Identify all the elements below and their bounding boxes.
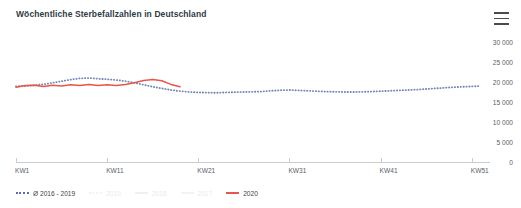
x-axis-tick [289, 158, 290, 163]
y-axis-label: 30 000 [493, 39, 513, 46]
y-axis-label: 10 000 [493, 119, 513, 126]
x-axis-label: KW11 [106, 167, 123, 174]
x-axis-label: KW41 [380, 167, 398, 174]
chart-container: Wöchentliche Sterbefallzahlen in Deutsch… [0, 0, 521, 208]
legend: Ø 2016 - 20192019201820172020 [16, 186, 272, 200]
x-axis-line [16, 162, 490, 163]
y-axis-label: 20 000 [493, 79, 513, 86]
legend-item[interactable]: 2017 [181, 190, 213, 197]
legend-label: 2018 [152, 190, 167, 197]
legend-label: 2017 [198, 190, 213, 197]
plot-area [0, 0, 521, 208]
x-axis-label: KW51 [471, 167, 489, 174]
x-axis-tick [16, 158, 17, 163]
y-axis: 05 00010 00015 00020 00025 00030 000 [467, 0, 513, 208]
x-axis-tick [107, 158, 108, 163]
legend-item[interactable]: 2019 [89, 190, 121, 197]
legend-swatch [89, 192, 102, 194]
y-axis-label: 0 [509, 159, 513, 166]
y-axis-label: 25 000 [493, 59, 513, 66]
legend-item[interactable]: 2018 [135, 190, 167, 197]
legend-label: 2019 [106, 190, 121, 197]
legend-item[interactable]: Ø 2016 - 2019 [16, 190, 75, 197]
x-axis-tick [381, 158, 382, 163]
x-axis-label: KW21 [197, 167, 215, 174]
legend-swatch [16, 192, 29, 194]
legend-swatch [135, 192, 148, 194]
legend-item[interactable]: 2020 [226, 190, 258, 197]
x-axis-tick [472, 158, 473, 163]
x-axis-label: KW31 [288, 167, 306, 174]
x-axis-tick [198, 158, 199, 163]
series-line [16, 80, 180, 88]
y-axis-label: 5 000 [496, 139, 513, 146]
y-axis-label: 15 000 [493, 99, 513, 106]
legend-label: Ø 2016 - 2019 [33, 190, 75, 197]
legend-swatch [181, 192, 194, 194]
legend-label: 2020 [243, 190, 258, 197]
legend-swatch [226, 192, 239, 194]
x-axis-label: KW1 [15, 167, 29, 174]
